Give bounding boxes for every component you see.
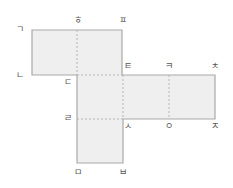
vertex-label: ㅎ <box>74 16 82 25</box>
vertex-label: ㅈ <box>211 122 219 131</box>
vertex-label: ㄹ <box>64 114 72 123</box>
vertex-label: ㅊ <box>211 62 219 71</box>
cuboid-net <box>0 0 233 188</box>
vertex-label: ㅇ <box>165 122 173 131</box>
vertex-label: ㅅ <box>124 122 132 131</box>
vertex-label: ㄴ <box>16 71 24 80</box>
vertex-label: ㅌ <box>124 62 132 71</box>
vertex-label: ㄷ <box>64 78 72 87</box>
vertex-label: ㅂ <box>119 168 127 177</box>
vertex-label: ㅋ <box>165 62 173 71</box>
vertex-label: ㅁ <box>74 168 82 177</box>
vertex-label: ㄱ <box>16 25 24 34</box>
vertex-label: ㅍ <box>119 16 127 25</box>
